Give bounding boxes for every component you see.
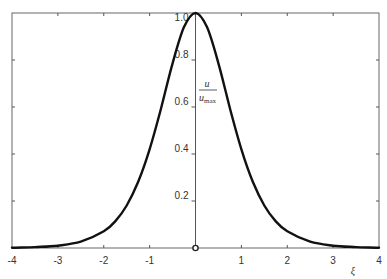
x-tick-label: -3 [53, 255, 62, 266]
y-tick-label: 0.2 [175, 190, 189, 201]
y-tick-label: 0.4 [175, 143, 189, 154]
origin-marker [193, 245, 198, 250]
x-tick-label: -2 [99, 255, 108, 266]
x-tick-label: 1 [239, 255, 245, 266]
x-axis-label: ξ [351, 265, 356, 277]
y-tick-labels: 0.20.40.60.81.0 [175, 12, 189, 201]
y-tick-label: 0.6 [175, 96, 189, 107]
y-label-numerator: u [205, 78, 210, 89]
x-tick-label: -4 [8, 255, 17, 266]
x-tick-label: -1 [145, 255, 154, 266]
chart: -4-3-2-11234 0.20.40.60.81.0 u umax ξ [0, 0, 387, 279]
y-label-denominator-sub: max [204, 97, 217, 105]
x-tick-label: 3 [330, 255, 336, 266]
x-tick-labels: -4-3-2-11234 [8, 255, 383, 266]
y-axis-label: u umax [199, 78, 217, 105]
y-label-denominator: umax [199, 92, 217, 105]
x-tick-label: 4 [376, 255, 382, 266]
x-tick-label: 2 [284, 255, 290, 266]
